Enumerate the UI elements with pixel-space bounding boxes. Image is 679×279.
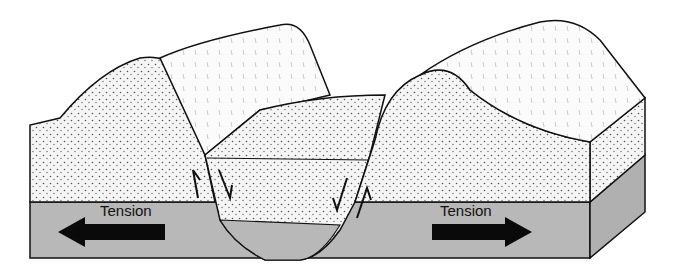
tension-label-left: Tension (100, 202, 152, 219)
rift-valley-diagram: Tension Tension (0, 0, 679, 279)
tension-label-right: Tension (440, 202, 492, 219)
